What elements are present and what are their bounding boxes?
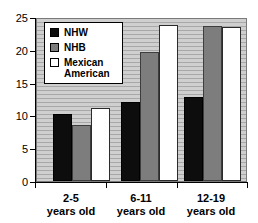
bar-nhb-6-11	[140, 52, 159, 181]
bar-mexican-american-6-11	[159, 25, 178, 181]
legend-item-nhb: NHB	[50, 42, 118, 53]
x-axis-line	[35, 182, 248, 183]
group-label-line1: 12-19	[168, 192, 254, 205]
y-axis-line	[35, 18, 36, 183]
y-tick-label-0: 0	[0, 177, 28, 187]
bar-nhb-12-19	[203, 26, 222, 181]
x-tick-2	[177, 183, 178, 188]
x-group-label-12-19: 12-19years old	[168, 192, 254, 218]
legend-item-nhw: NHW	[50, 27, 118, 38]
x-tick-1	[106, 183, 107, 188]
bar-nhw-12-19	[184, 97, 203, 181]
y-tick-25	[30, 18, 36, 19]
y-tick-15	[30, 84, 36, 85]
bar-nhb-2-5	[72, 125, 91, 181]
legend-item-mexican-american: Mexican American	[50, 57, 118, 79]
y-tick-label-5: 5	[0, 144, 28, 154]
y-tick-label-10: 10	[0, 111, 28, 121]
x-tick-3	[247, 183, 248, 188]
group-label-line2: years old	[168, 205, 254, 218]
white-swatch-icon	[50, 58, 59, 67]
y-tick-label-25: 25	[0, 13, 28, 23]
legend-label-line2: American	[64, 68, 110, 79]
x-tick-0	[35, 183, 36, 188]
y-tick-10	[30, 116, 36, 117]
y-tick-5	[30, 149, 36, 150]
bar-mexican-american-12-19	[222, 27, 241, 181]
bar-mexican-american-2-5	[91, 108, 110, 181]
legend-label-nhb: NHB	[64, 42, 86, 53]
bar-nhw-2-5	[53, 114, 72, 181]
y-tick-label-15: 15	[0, 79, 28, 89]
gray-swatch-icon	[50, 43, 59, 52]
chart-legend: NHW NHB Mexican American	[44, 22, 123, 84]
legend-label-mexican-american: Mexican American	[64, 57, 110, 79]
bar-nhw-6-11	[121, 102, 140, 181]
legend-label-line1: Mexican	[64, 57, 103, 68]
bar-chart: 2520151050 2-5years old6-11years old12-1…	[0, 0, 258, 223]
y-tick-label-20: 20	[0, 46, 28, 56]
black-swatch-icon	[50, 28, 59, 37]
legend-label-nhw: NHW	[64, 27, 88, 38]
y-tick-20	[30, 51, 36, 52]
